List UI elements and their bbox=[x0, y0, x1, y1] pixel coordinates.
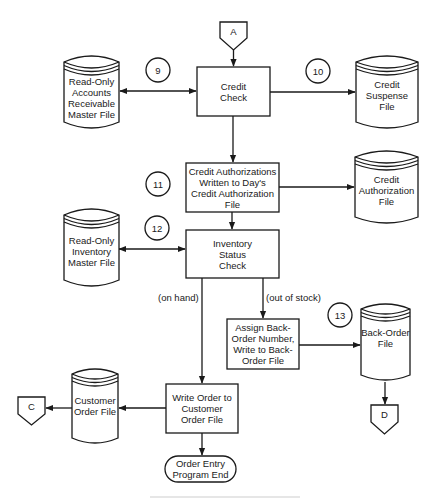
connector-c-label: C bbox=[18, 397, 45, 415]
inventory-check-box: Inventory Status Check bbox=[186, 230, 279, 278]
file-credit-authorization: Credit Authorization File bbox=[355, 167, 418, 213]
file-ar-master: Read-Only Accounts Receivable Master Fil… bbox=[64, 72, 119, 124]
step-number-13: 13 bbox=[328, 303, 352, 327]
assign-backorder-label: Assign Back-Order Number, Write to Back-… bbox=[228, 322, 298, 366]
connector-a-label: A bbox=[220, 22, 247, 40]
credit-auth-box: Credit Authorizations Written to Day's C… bbox=[186, 163, 279, 212]
inventory-check-label: Inventory Status Check bbox=[208, 238, 258, 271]
credit-auth-label: Credit Authorizations Written to Day's C… bbox=[187, 166, 279, 210]
write-order-label: Write Order to Customer Order File bbox=[169, 392, 235, 425]
branch-label-out-of-stock: (out of stock) bbox=[266, 292, 321, 303]
step-number-11: 11 bbox=[146, 172, 170, 196]
connector-d-label: D bbox=[371, 405, 398, 423]
branch-label-on-hand: (on hand) bbox=[158, 292, 199, 303]
file-credit-authorization-label: Credit Authorization File bbox=[356, 174, 418, 207]
assign-backorder-box: Assign Back-Order Number, Write to Back-… bbox=[227, 319, 299, 369]
terminal-label: Order Entry Program End bbox=[169, 458, 233, 480]
terminal-box: Order Entry Program End bbox=[165, 456, 236, 482]
file-inventory-master: Read-Only Inventory Master File bbox=[64, 225, 119, 277]
file-inventory-master-label: Read-Only Inventory Master File bbox=[64, 235, 119, 268]
file-ar-master-label: Read-Only Accounts Receivable Master Fil… bbox=[64, 76, 119, 120]
file-backorder-label: Back-Order File bbox=[361, 327, 410, 349]
credit-check-label: Credit Check bbox=[214, 81, 254, 103]
file-customer-order: Customer Order File bbox=[72, 384, 118, 428]
file-credit-suspense-label: Credit Suspense File bbox=[363, 79, 411, 112]
write-order-box: Write Order to Customer Order File bbox=[166, 384, 238, 433]
step-number-12: 12 bbox=[145, 216, 169, 240]
step-number-10: 10 bbox=[306, 59, 330, 83]
step-number-9: 9 bbox=[146, 58, 170, 82]
file-credit-suspense: Credit Suspense File bbox=[356, 72, 418, 118]
file-customer-order-label: Customer Order File bbox=[72, 395, 118, 417]
file-backorder: Back-Order File bbox=[361, 318, 410, 358]
credit-check-box: Credit Check bbox=[197, 67, 270, 116]
